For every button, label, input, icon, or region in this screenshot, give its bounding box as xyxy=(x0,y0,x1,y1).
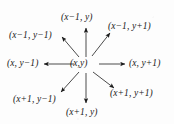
arrow-up-left xyxy=(62,37,79,57)
arrow-down-left xyxy=(61,72,79,92)
label-down-right: (x+1, y+1) xyxy=(110,89,153,99)
label-center: (x,y) xyxy=(70,59,88,69)
label-up-right: (x−1, y+1) xyxy=(108,22,151,32)
arrow-down-right xyxy=(93,72,114,88)
label-down-left: (x+1, y−1) xyxy=(13,95,56,105)
label-down: (x+1, y) xyxy=(66,108,97,118)
label-left: (x, y−1) xyxy=(7,59,38,69)
label-right: (x, y+1) xyxy=(129,59,160,69)
arrow-up-right xyxy=(92,33,110,56)
neighborhood-diagram: (x,y) (x−1, y) (x−1, y+1) (x−1, y−1) (x,… xyxy=(0,0,174,124)
label-up-left: (x−1, y−1) xyxy=(9,31,52,41)
label-up: (x−1, y) xyxy=(61,13,92,23)
